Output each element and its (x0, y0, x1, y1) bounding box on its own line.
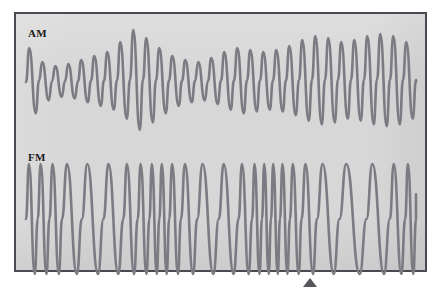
figure-root: AM FM (0, 0, 441, 290)
fm-label: FM (28, 152, 46, 163)
triangle-marker-icon (303, 278, 317, 287)
fm-waveform-trace (16, 14, 425, 270)
plot-panel: AM FM (14, 12, 427, 272)
am-label: AM (28, 28, 47, 39)
fm-waveform-path (26, 164, 416, 274)
